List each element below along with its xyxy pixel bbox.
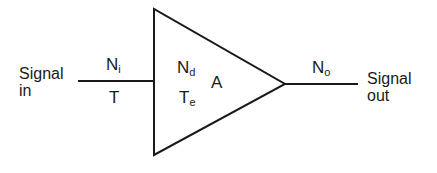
output-noise-label: No: [312, 59, 330, 81]
device-noise-label: Nd: [177, 59, 195, 81]
signal-in-line2: in: [19, 82, 63, 99]
effective-temperature-label: Te: [179, 89, 196, 111]
input-temperature-label: T: [109, 89, 119, 106]
signal-out-label: Signal out: [367, 70, 411, 104]
gain-label: A: [211, 74, 222, 91]
input-noise-label: Ni: [106, 56, 121, 78]
signal-in-line1: Signal: [19, 65, 63, 82]
amplifier-diagram: Signal in Ni T Nd Te A No Signal out: [0, 0, 437, 173]
signal-in-label: Signal in: [19, 65, 63, 99]
signal-out-line2: out: [367, 87, 411, 104]
signal-out-line1: Signal: [367, 70, 411, 87]
